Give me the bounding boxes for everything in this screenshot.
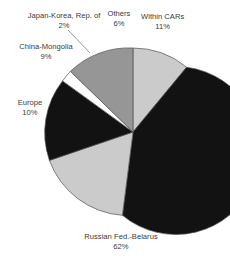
pie-chart-figure: Within CARs 11% Others 6% Japan-Korea, R… (0, 0, 230, 259)
pie-label-europe: Europe 10% (8, 98, 52, 117)
pie-label-others-name: Others (103, 9, 135, 19)
pie-label-europe-value: 10% (8, 108, 52, 118)
pie-label-within-cars-name: Within CARs (141, 12, 184, 22)
pie-label-china-mongolia-value: 9% (10, 52, 82, 62)
pie-label-japan-korea: Japan-Korea, Rep. of 2% (22, 11, 106, 30)
pie-label-japan-korea-value: 2% (22, 21, 106, 31)
pie-label-others: Others 6% (103, 9, 135, 28)
pie-label-china-mongolia: China-Mongolia 9% (10, 42, 82, 61)
pie-label-china-mongolia-name: China-Mongolia (10, 42, 82, 52)
pie-label-russian-fed-belarus: Russian Fed.-Belarus 62% (66, 232, 176, 251)
pie-label-others-value: 6% (103, 19, 135, 29)
pie-label-within-cars: Within CARs 11% (141, 12, 184, 31)
pie-label-japan-korea-name: Japan-Korea, Rep. of (22, 11, 106, 21)
pie-label-within-cars-value: 11% (141, 22, 184, 32)
pie-label-russian-fed-belarus-value: 62% (66, 242, 176, 252)
pie-chart-graphic (0, 0, 230, 259)
pie-label-europe-name: Europe (8, 98, 52, 108)
pie-label-russian-fed-belarus-name: Russian Fed.-Belarus (66, 232, 176, 242)
